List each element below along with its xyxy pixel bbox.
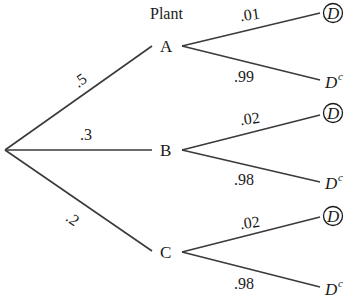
outcome-b-dc-superscript: c: [338, 171, 343, 183]
outcome-a-d: D: [326, 4, 340, 23]
node-plant-a: A: [160, 37, 173, 56]
prob-label-c: .2: [63, 208, 83, 229]
prob-label-b-dc: .98: [234, 171, 254, 188]
outcome-a-dc: D: [324, 73, 338, 92]
outcome-c-dc: D: [324, 280, 338, 299]
prob-label-c-dc: .98: [234, 275, 254, 292]
prob-label-b: .3: [80, 126, 92, 143]
node-plant-b: B: [160, 141, 171, 160]
edge-root-a: [5, 46, 152, 150]
probability-tree-diagram: Plant .5 .3 .2 A B C .01 .99 D D c .02 .…: [0, 0, 356, 301]
outcome-c-dc-superscript: c: [338, 277, 343, 289]
outcome-c-d: D: [326, 207, 340, 226]
prob-label-c-d: .02: [239, 213, 261, 233]
prob-label-a-dc: .99: [234, 68, 254, 85]
prob-label-b-d: .02: [239, 109, 261, 129]
prob-label-a-d: .01: [239, 5, 261, 25]
outcome-a-dc-superscript: c: [338, 70, 343, 82]
edge-root-c: [5, 150, 152, 251]
outcome-b-dc: D: [324, 174, 338, 193]
outcome-b-d: D: [326, 104, 340, 123]
node-plant-c: C: [160, 243, 171, 262]
prob-label-a: .5: [70, 70, 90, 91]
diagram-title: Plant: [150, 5, 183, 22]
